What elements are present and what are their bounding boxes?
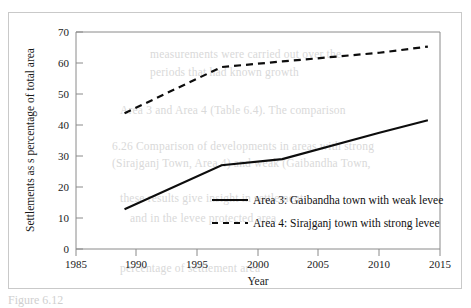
x-tick-label: 1990	[125, 258, 148, 270]
y-tick-label: 40	[58, 119, 70, 131]
y-tick-label: 20	[58, 181, 70, 193]
y-tick-label: 50	[58, 88, 70, 100]
x-axis-ticks	[76, 249, 440, 256]
y-axis-ticks	[76, 32, 83, 249]
x-tick-label: 2005	[307, 258, 330, 270]
y-axis-tick-labels: 0 10 20 30 40 50 60 70	[58, 26, 70, 255]
x-tick-label: 1995	[186, 258, 209, 270]
x-tick-label: 2010	[368, 258, 391, 270]
y-tick-label: 0	[64, 243, 70, 255]
chart-legend: Area 3: Gaibandha town with weak levee A…	[212, 194, 443, 230]
x-tick-label: 2015	[429, 258, 452, 270]
x-tick-label: 1985	[65, 258, 88, 270]
x-tick-label: 2000	[247, 258, 270, 270]
legend-label-area-3: Area 3: Gaibandha town with weak levee	[253, 194, 443, 206]
y-tick-label: 10	[58, 212, 70, 224]
y-tick-label: 30	[58, 150, 70, 162]
y-tick-label: 60	[58, 57, 70, 69]
y-axis-title: Settlements as s percentage of total are…	[24, 48, 37, 232]
x-axis-title: Year	[247, 275, 268, 287]
legend-label-area-4: Area 4: Sirajganj town with strong levee	[253, 217, 440, 230]
y-tick-label: 70	[58, 26, 70, 38]
series-line-area-4	[125, 47, 428, 114]
x-axis-tick-labels: 1985 1990 1995 2000 2005 2010 2015	[65, 258, 452, 270]
